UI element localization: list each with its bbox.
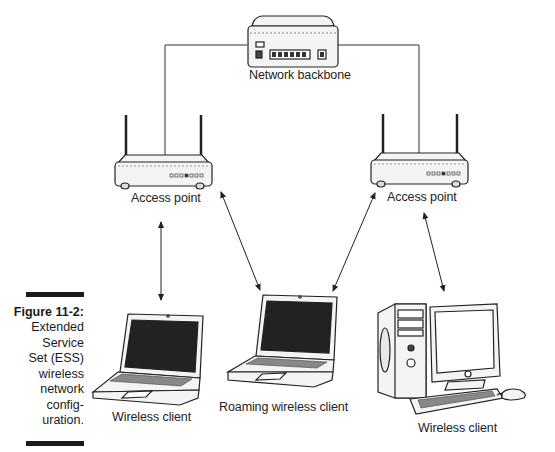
caption-line: Set (ESS) bbox=[0, 351, 84, 367]
wireless-link-right-ap-to-roaming bbox=[333, 193, 375, 291]
client-roaming-label: Roaming wireless client bbox=[219, 400, 348, 414]
access-point-left-label: Access point bbox=[131, 191, 201, 205]
caption-line: config- bbox=[0, 398, 84, 414]
caption-bottom-rule bbox=[26, 441, 84, 446]
access-point-right-label: Access point bbox=[387, 190, 457, 204]
laptop-icon-roaming bbox=[228, 295, 337, 387]
caption-line: Extended bbox=[0, 320, 84, 336]
network-hub-icon bbox=[248, 16, 338, 67]
wired-link-left bbox=[165, 45, 247, 155]
figure-caption: Figure 11-2: Extended Service Set (ESS) … bbox=[0, 292, 84, 446]
figure-number: Figure 11-2: bbox=[0, 305, 84, 320]
wireless-router-icon-left bbox=[115, 115, 212, 189]
desktop-computer-icon bbox=[378, 304, 525, 414]
wireless-link-right-ap-to-client bbox=[424, 213, 444, 291]
backbone-label: Network backbone bbox=[249, 68, 351, 82]
caption-line: uration. bbox=[0, 413, 84, 429]
laptop-icon-left bbox=[93, 314, 203, 405]
caption-line: Service bbox=[0, 336, 84, 352]
caption-top-rule bbox=[26, 292, 84, 297]
wireless-link-left-ap-to-roaming bbox=[221, 192, 260, 290]
caption-line: wireless bbox=[0, 367, 84, 383]
wired-link-right bbox=[338, 45, 419, 153]
client-left-label: Wireless client bbox=[112, 410, 191, 424]
client-right-label: Wireless client bbox=[418, 421, 497, 435]
caption-line: network bbox=[0, 382, 84, 398]
